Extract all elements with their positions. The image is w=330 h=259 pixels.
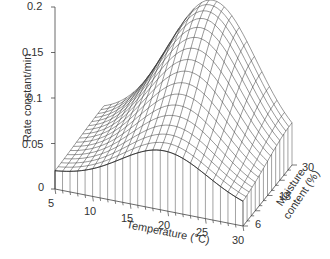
wireframe-line [115, 53, 164, 162]
wireframe-line [183, 16, 232, 159]
plot-line [130, 204, 131, 209]
x-tick-label: 30 [232, 234, 244, 246]
x-tick-label: 10 [84, 205, 96, 217]
wireframe-line [98, 11, 286, 131]
plot-line [168, 211, 169, 216]
wireframe-line [55, 150, 243, 201]
wireframe-line [235, 112, 284, 196]
y-axis-label: Rate constant/min [21, 43, 33, 153]
wireframe-line [58, 142, 246, 196]
y-tick-label: 0 [38, 181, 44, 193]
wireframe-line [55, 150, 243, 201]
x-tick-label: 5 [48, 197, 54, 209]
wireframe-line [55, 106, 104, 171]
z-tick-label: 6 [255, 218, 261, 230]
plot-line [243, 226, 244, 231]
plot-line [55, 189, 56, 194]
plot-line [205, 219, 206, 224]
plot-line [93, 196, 94, 201]
y-tick-label: 0.2 [27, 0, 42, 12]
wireframe-line [145, 8, 194, 151]
wireframe-line [95, 18, 283, 135]
wireframe-line [205, 56, 254, 174]
wireframe-line [104, 0, 292, 123]
